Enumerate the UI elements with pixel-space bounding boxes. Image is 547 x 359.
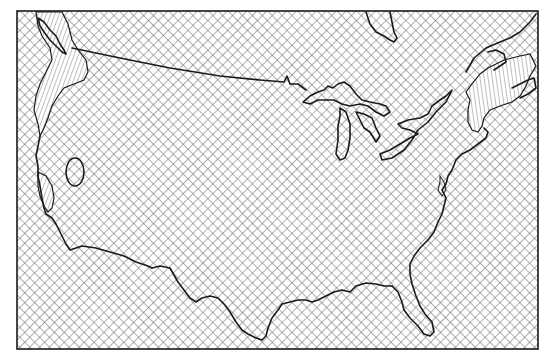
map-svg: [0, 0, 547, 359]
map-container: Contiguous United States zone map: [0, 0, 547, 359]
crosshatch-zone: [17, 11, 538, 349]
